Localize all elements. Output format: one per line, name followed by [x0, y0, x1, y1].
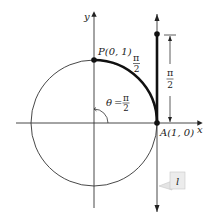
tangent-length-denominator: 2 [167, 80, 173, 90]
point-p [91, 57, 97, 63]
theta-denominator: 2 [123, 103, 128, 113]
theta-numerator: π [123, 93, 129, 103]
x-axis-label: x [197, 124, 203, 135]
point-a [154, 120, 160, 126]
dimension-arrow-up-icon [168, 36, 172, 41]
unit-circle-diagram: y x P(0, 1) A(1, 0) π 2 π 2 θ = π 2 l [0, 0, 212, 219]
tangent-length-numerator: π [167, 67, 173, 78]
point-p-label: P(0, 1) [97, 46, 132, 57]
tangent-line-label: l [176, 176, 179, 187]
tangent-line-bottom-arrow-icon [155, 205, 160, 212]
y-axis-label: y [83, 11, 90, 22]
point-a-label: A(1, 0) [159, 127, 194, 138]
arc-theta [94, 60, 157, 123]
arc-length-numerator: π [133, 52, 139, 63]
point-tangent-end [154, 31, 160, 37]
diagram-canvas: y x P(0, 1) A(1, 0) π 2 π 2 θ = π 2 l [0, 0, 212, 219]
tangent-line-top-arrow-icon [155, 14, 160, 21]
theta-symbol: θ [106, 97, 112, 108]
dimension-arrow-down-icon [168, 117, 172, 122]
theta-equals: = [114, 97, 122, 108]
arc-length-denominator: 2 [134, 64, 140, 74]
